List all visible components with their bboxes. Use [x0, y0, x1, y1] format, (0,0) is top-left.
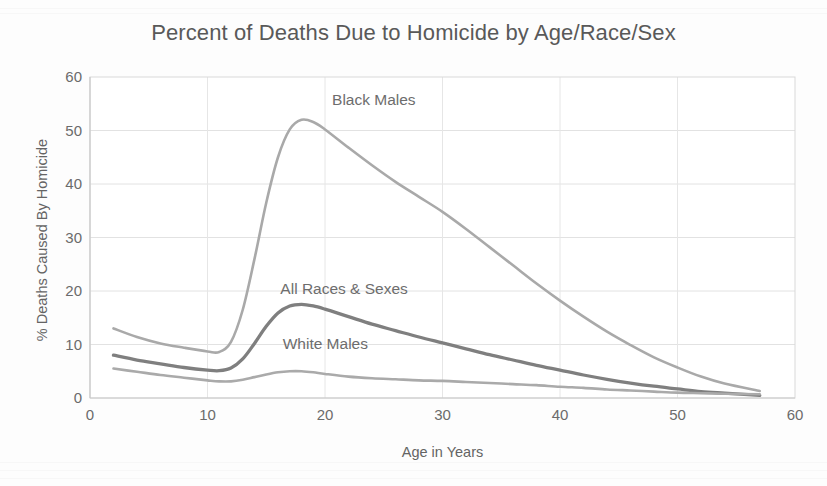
scan-artifact [0, 470, 827, 471]
scan-artifact [0, 13, 827, 14]
series-label-all-races-sexes: All Races & Sexes [280, 280, 408, 298]
scan-artifact [0, 478, 827, 479]
series-label-black-males: Black Males [332, 91, 416, 109]
plot-area [0, 0, 827, 486]
series-label-white-males: White Males [283, 335, 368, 353]
chart-container: Percent of Deaths Due to Homicide by Age… [0, 0, 827, 486]
scan-artifact [0, 8, 827, 9]
scan-artifact [0, 462, 827, 463]
